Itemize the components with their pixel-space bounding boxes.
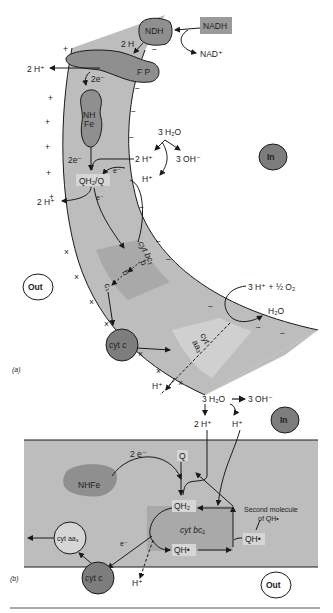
minus-sign: − [280,328,285,338]
qh2q-label: QH₂/Q [79,176,104,186]
cyt-aa3-label-b: cyt aa₃ [57,535,79,543]
water-label-a: 3 H₂O [158,127,182,137]
minus-sign: − [129,132,134,142]
minus-sign: − [135,83,140,93]
cyt-c-label-a: cyt c [109,340,127,350]
three-oh-a: 3 OH⁻ [176,154,201,164]
panel-b-label: (b) [10,575,19,583]
qh-dot-lower: QH• [174,545,190,555]
cross-sign: × [138,349,143,359]
panel-a: NADH NAD⁺ NDH 2 H − + F P 2 H⁺ 2e⁻ − NH … [12,15,318,395]
nhfe-label-b: NHFe [78,480,100,490]
three-oh-b: 3 OH⁻ [248,394,273,404]
minus-sign: − [256,322,261,332]
h-plus-b: H⁺ [232,419,243,429]
cyt-bc1-label-b: cyt bc₁ [180,525,205,535]
two-e-top: 2e⁻ [91,74,105,84]
qh2-label: QH₂ [174,501,190,511]
minus-sign: − [156,236,161,246]
two-e-mid: 2e⁻ [68,155,82,165]
out-label-a: Out [28,282,43,292]
nadh-label: NADH [203,21,227,31]
h-plus-bottom-b: H⁺ [132,578,143,588]
two-h-plus-lower: 2 H⁺ [37,197,55,207]
minus-sign: − [131,106,136,116]
nad-label: NAD⁺ [200,49,223,59]
fp-label: F P [137,67,151,77]
minus-sign: − [139,202,144,212]
second-molecule-1: Second molecule [244,506,298,513]
second-molecule-2: of QH• [258,515,279,523]
in-label-a: In [267,152,275,162]
two-h-label: 2 H [121,39,134,49]
plus-sign: + [45,117,50,127]
two-e-b: 2 e⁻ [130,449,147,459]
e-minus-b: e⁻ [120,540,128,547]
plus-sign: + [46,168,51,178]
h2o-label: H₂O [268,306,284,316]
two-h-plus-left: 2 H⁺ [27,64,45,74]
minus-sign: − [166,254,171,264]
cross-sign: × [64,247,69,257]
h-plus-center: H⁺ [142,174,153,184]
plus-sign: + [48,93,53,103]
h-plus-bottom-a: H⁺ [152,381,163,391]
cross-sign: × [89,297,94,307]
e-minus-1: e⁻ [113,167,121,174]
cyt-c-label-b: cyt c [85,573,103,583]
cross-sign: × [178,378,183,388]
panel-b: 3 H₂O 3 OH⁻ 2 H⁺ H⁺ In NHFe 2 e⁻ Q cyt b… [10,394,318,598]
qh-dot-right: QH• [245,534,261,544]
two-h-plus-center: 2 H⁺ [135,154,153,164]
out-label-b: Out [266,580,281,590]
water-label-b: 3 H₂O [202,394,226,404]
two-h-plus-b: 2 H⁺ [194,419,212,429]
oxygen-label: 3 H⁺ + ½ O₂ [248,282,295,292]
panel-a-label: (a) [12,366,21,374]
ndh-label: NDH [145,26,163,36]
plus-sign: + [63,44,68,54]
cross-sign: × [156,366,161,376]
cross-sign: × [74,272,79,282]
plus-sign: + [45,142,50,152]
in-label-b: In [280,415,288,425]
minus-sign: − [152,44,157,54]
q-label: Q [179,451,186,461]
nhfe-label-2: Fe [84,119,94,129]
cross-sign: × [104,319,109,329]
minus-sign: − [208,301,213,311]
electron-transport-diagram: NADH NAD⁺ NDH 2 H − + F P 2 H⁺ 2e⁻ − NH … [0,0,333,613]
